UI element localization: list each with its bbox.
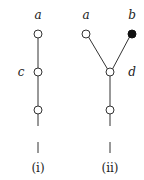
node-b-filled xyxy=(128,30,136,38)
node-d xyxy=(106,68,114,76)
node-c xyxy=(34,68,42,76)
tree-i: a c (i) xyxy=(18,8,45,175)
label-a: a xyxy=(34,8,41,22)
tree-ii: a b d (ii) xyxy=(82,8,136,175)
node-a xyxy=(34,30,42,38)
label-b: b xyxy=(128,8,136,22)
label-a: a xyxy=(82,8,89,22)
caption-i: (i) xyxy=(31,161,44,175)
label-d: d xyxy=(128,65,136,79)
edge-b-d xyxy=(113,37,130,69)
edge-a-d xyxy=(89,37,108,69)
caption-ii: (ii) xyxy=(101,161,118,175)
node-a xyxy=(82,30,90,38)
node-bottom xyxy=(34,106,42,114)
tree-diagram: a c (i) a b d (ii) xyxy=(0,0,144,180)
label-c: c xyxy=(18,65,25,79)
node-bottom xyxy=(106,106,114,114)
